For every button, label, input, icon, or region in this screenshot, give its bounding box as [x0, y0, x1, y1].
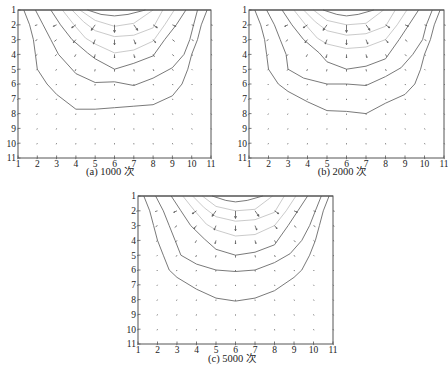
- quiver-arrow: [288, 114, 289, 115]
- figure: 12345678910111234567891011 1234567891011…: [0, 0, 448, 375]
- x-tick-label: 11: [439, 159, 448, 169]
- quiver-arrow: [196, 255, 197, 257]
- y-tick-label: 1: [131, 191, 136, 201]
- quiver-arrow: [75, 69, 76, 71]
- y-tick-label: 9: [131, 310, 136, 320]
- y-tick-label: 6: [242, 79, 247, 89]
- quiver-arrow: [176, 240, 178, 242]
- panel-b-caption: (b) 2000 次: [318, 165, 367, 178]
- contour-line: [171, 196, 307, 255]
- quiver-arrow: [157, 314, 158, 315]
- arrow-head-icon: [346, 57, 347, 58]
- quiver-arrow: [314, 314, 315, 315]
- quiver-arrow: [172, 84, 173, 85]
- contour-line: [202, 196, 272, 211]
- quiver-arrow: [95, 69, 96, 71]
- quiver-arrow: [54, 40, 56, 42]
- x-tick-label: 4: [74, 159, 79, 169]
- quiver-arrow: [196, 270, 197, 271]
- contour-line: [267, 10, 433, 86]
- quiver-arrow: [56, 99, 57, 100]
- quiver-arrow: [294, 255, 295, 256]
- y-tick-label: 6: [131, 265, 136, 275]
- quiver-arrow: [405, 114, 406, 115]
- y-tick-label: 3: [131, 221, 136, 231]
- x-tick-label: 1: [16, 159, 21, 169]
- quiver-arrow: [192, 143, 193, 144]
- contour-line: [51, 10, 186, 69]
- y-tick-label: 3: [11, 35, 16, 45]
- quiver-arrow: [307, 69, 308, 71]
- x-tick-label: 1: [136, 345, 141, 355]
- quiver-arrow: [307, 84, 308, 85]
- quiver-arrow: [176, 255, 177, 256]
- y-tick-label: 5: [242, 65, 247, 75]
- quiver-arrow: [294, 240, 296, 242]
- quiver-arrow: [314, 270, 315, 271]
- contour-line: [282, 10, 419, 69]
- quiver-arrow: [287, 84, 288, 85]
- quiver-arrow: [386, 69, 387, 71]
- x-tick-label: 9: [170, 159, 175, 169]
- contour-line: [144, 196, 329, 301]
- quiver-arrow: [172, 69, 173, 70]
- quiver-arrow: [294, 285, 295, 286]
- panel-b-plot: 12345678910111234567891011: [238, 5, 448, 169]
- quiver-arrow: [55, 54, 57, 56]
- arrow-head-icon: [114, 57, 115, 58]
- quiver-arrow: [314, 285, 315, 286]
- quiver-arrow: [155, 211, 157, 212]
- quiver-arrow: [405, 54, 407, 56]
- quiver-arrow: [275, 255, 276, 257]
- quiver-arrow: [75, 84, 76, 85]
- x-tick-label: 2: [35, 159, 40, 169]
- y-tick-label: 4: [242, 50, 247, 60]
- x-tick-label: 3: [286, 159, 291, 169]
- quiver-arrow: [287, 69, 288, 70]
- x-tick-label: 3: [54, 159, 59, 169]
- quiver-arrow: [37, 143, 38, 144]
- quiver-arrow: [405, 40, 407, 42]
- quiver-arrow: [287, 54, 289, 56]
- quiver-arrow: [134, 69, 135, 71]
- x-tick-label: 8: [272, 345, 277, 355]
- x-tick-label: 11: [206, 159, 215, 169]
- y-tick-label: 8: [131, 295, 136, 305]
- quiver-arrow: [314, 329, 315, 330]
- quiver-arrow: [275, 240, 276, 243]
- quiver-arrow: [177, 300, 178, 301]
- quiver-arrow: [192, 114, 193, 115]
- x-tick-label: 4: [305, 159, 310, 169]
- quiver-arrow: [37, 114, 38, 115]
- quiver-arrow: [216, 255, 217, 257]
- quiver-arrow: [192, 84, 193, 85]
- quiver-arrow: [268, 84, 269, 85]
- contour-line: [193, 196, 285, 221]
- quiver-arrow: [306, 54, 307, 57]
- quiver-arrow: [314, 226, 316, 227]
- quiver-arrow: [294, 270, 295, 271]
- contour-line: [35, 10, 197, 86]
- contour-line: [212, 196, 263, 202]
- panel-c-caption: (c) 5000 次: [208, 352, 257, 365]
- contour-line: [80, 10, 153, 26]
- quiver-arrow: [37, 84, 38, 85]
- x-tick-label: 4: [194, 345, 199, 355]
- quiver-arrow: [172, 99, 173, 100]
- quiver-arrow: [268, 143, 269, 144]
- quiver-arrow: [156, 226, 158, 227]
- quiver-arrow: [386, 84, 387, 85]
- y-tick-label: 8: [242, 109, 247, 119]
- quiver-arrow: [405, 69, 406, 70]
- y-tick-label: 11: [127, 339, 136, 349]
- x-tick-label: 2: [155, 345, 160, 355]
- quiver-arrow: [157, 300, 158, 301]
- quiver-arrow: [35, 25, 37, 26]
- quiver-arrow: [36, 54, 37, 55]
- x-tick-label: 8: [383, 159, 388, 169]
- quiver-arrow: [172, 40, 174, 42]
- quiver-arrow: [386, 54, 387, 57]
- y-tick-label: 10: [238, 139, 248, 149]
- quiver-arrow: [268, 128, 269, 129]
- quiver-arrow: [56, 69, 57, 70]
